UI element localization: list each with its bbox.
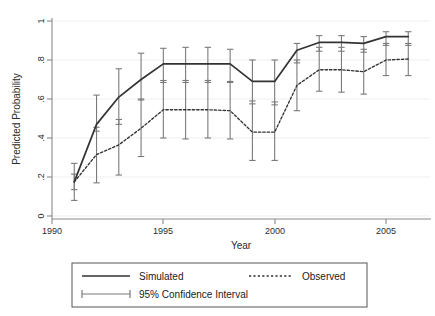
x-tick-label-2000: 2000 [265,226,285,236]
chart-background [0,0,435,316]
y-tick-label-0: 0 [36,213,46,218]
y-axis-title: Predicted Probability [11,73,22,165]
legend-label-confidence-interval: 95% Confidence Interval [139,289,248,300]
y-tick-label-0.4: .4 [36,134,46,142]
y-tick-label-0.2: .2 [36,173,46,181]
x-tick-label-2005: 2005 [376,226,396,236]
y-tick-label-1: 1 [36,18,46,23]
legend-label-simulated: Simulated [139,271,183,282]
y-tick-label-0.6: .6 [36,95,46,103]
y-tick-label-0.8: .8 [36,56,46,64]
chart-figure: 1 .8 .6 .4 .2 0 Predicted Probability 19… [0,0,435,316]
x-axis-title: Year [231,240,252,251]
predicted-probability-line-chart: 1 .8 .6 .4 .2 0 Predicted Probability 19… [0,0,435,316]
x-tick-label-1995: 1995 [153,226,173,236]
x-tick-label-1990: 1990 [42,226,62,236]
legend-label-observed: Observed [302,271,345,282]
